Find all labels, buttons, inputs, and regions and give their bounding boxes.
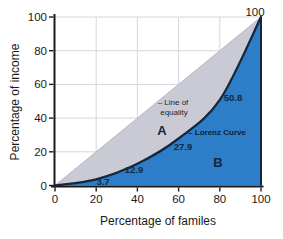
point-label-3-7: 3.7 xyxy=(96,176,109,187)
y-tick-label: 20 xyxy=(34,146,47,158)
line-of-equality-label-2: equality xyxy=(160,108,188,117)
y-tick-label: 100 xyxy=(28,11,47,23)
area-a-label: A xyxy=(157,123,167,138)
y-tick-label: 0 xyxy=(41,180,47,192)
x-tick-label: 0 xyxy=(52,193,58,205)
corner-label-100: 100 xyxy=(245,6,264,18)
x-tick-label: 80 xyxy=(213,193,226,205)
lorenz-curve-label: – Lorenz Curve xyxy=(188,128,246,137)
lorenz-curve-chart: 0204060801000204060801003.712.927.950.81… xyxy=(0,0,283,239)
area-b-label: B xyxy=(213,155,222,170)
point-label-27-9: 27.9 xyxy=(174,141,193,152)
lorenz-curve-figure: 0204060801000204060801003.712.927.950.81… xyxy=(0,0,283,239)
x-axis-title: Percentage of familes xyxy=(100,214,216,228)
x-tick-label: 20 xyxy=(90,193,103,205)
x-tick-label: 100 xyxy=(251,193,270,205)
y-tick-label: 60 xyxy=(34,78,47,90)
point-label-12-9: 12.9 xyxy=(125,164,144,175)
y-axis-title: Percentage of income xyxy=(8,44,22,161)
y-tick-label: 40 xyxy=(34,112,47,124)
y-tick-label: 80 xyxy=(34,45,47,57)
point-label-50-8: 50.8 xyxy=(224,92,243,103)
x-tick-label: 40 xyxy=(131,193,144,205)
x-tick-label: 60 xyxy=(172,193,185,205)
line-of-equality-label-1: – Line of xyxy=(158,98,189,107)
